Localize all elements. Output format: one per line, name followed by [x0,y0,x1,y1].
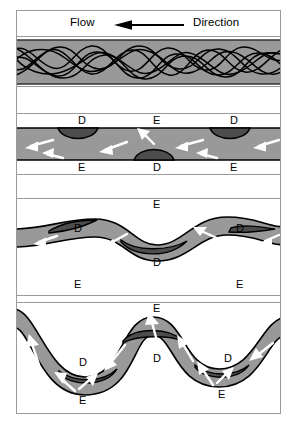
incipient-bar-diagram [17,114,280,174]
label-D: D [78,115,86,126]
label-D: D [236,223,244,234]
label-E: E [78,162,85,173]
label-D: D [153,162,161,173]
label-E: E [153,199,160,210]
label-E: E [79,395,86,406]
panel-divider [17,295,280,296]
label-D: D [224,353,232,364]
label-D: D [230,115,238,126]
label-E: E [230,162,237,173]
label-E: E [153,303,160,314]
label-E: E [74,279,81,290]
flow-direction-header: Flow Direction [17,11,280,37]
panel-divider [17,86,280,87]
label-D: D [153,257,161,268]
panel-developing-meander-stage: E D D D E E [17,199,280,295]
label-E: E [236,279,243,290]
meander-evolution-figure: Flow Direction [16,10,281,414]
panel-braided-channel-stage [17,38,280,86]
direction-label: Direction [193,16,239,28]
left-arrow-icon [114,20,186,30]
panel-incipient-pool-riffle-stage: D E D E D E [17,114,280,174]
panel-mature-meander-stage: E D D D E E [17,303,280,414]
label-D: D [79,357,87,368]
label-E: E [153,115,160,126]
flow-label: Flow [70,16,95,28]
label-D: D [74,223,82,234]
label-E: E [218,389,225,400]
braided-channel-diagram [17,38,280,86]
panel-divider [17,174,280,175]
mature-meander-diagram [17,303,280,414]
label-D: D [153,353,161,364]
